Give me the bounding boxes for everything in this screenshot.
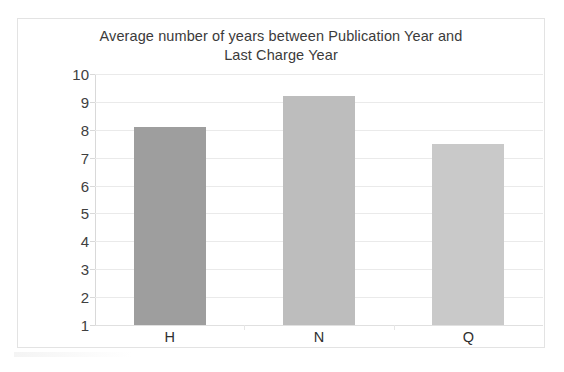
scan-artifact	[14, 352, 132, 357]
gridline-10	[95, 74, 543, 75]
chart-title-line-2: Last Charge Year	[18, 46, 544, 65]
bar-Q[interactable]	[432, 144, 504, 325]
x-axis-category-labels: HNQ	[95, 329, 543, 355]
bar-H[interactable]	[134, 127, 206, 325]
chart-title-line-1: Average number of years between Publicat…	[18, 27, 544, 46]
x-label-H: H	[95, 329, 244, 345]
x-label-N: N	[244, 329, 393, 345]
chart-frame: Average number of years between Publicat…	[17, 18, 545, 348]
gridline-1	[95, 325, 543, 326]
bar-N[interactable]	[283, 96, 355, 325]
chart-title: Average number of years between Publicat…	[18, 27, 544, 65]
x-axis-separator-2	[394, 325, 395, 330]
x-label-Q: Q	[394, 329, 543, 345]
plot-area	[95, 74, 543, 325]
x-axis-separator-1	[244, 325, 245, 330]
